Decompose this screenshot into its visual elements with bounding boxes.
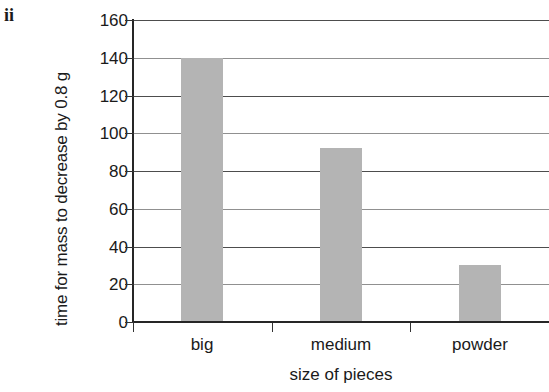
y-axis-tick-mark [125, 171, 134, 172]
y-axis-tick-label-column: 020406080100120140160 [84, 0, 128, 392]
y-axis-tick-label: 40 [84, 238, 128, 255]
x-axis-tick-mark [410, 323, 411, 332]
x-axis-tick-mark [133, 323, 134, 332]
x-axis-line [133, 321, 549, 323]
x-axis-category-label: powder [452, 336, 508, 353]
y-axis-tick-mark [125, 247, 134, 248]
x-axis-category-label: medium [311, 336, 371, 353]
plot-area [133, 20, 549, 322]
y-axis-tick-mark [125, 58, 134, 59]
y-axis-tick-label: 0 [84, 314, 128, 331]
y-axis-tick-label: 20 [84, 276, 128, 293]
bar [459, 265, 501, 322]
bar [181, 58, 223, 322]
x-axis-category-label: big [191, 336, 214, 353]
y-axis-tick-label: 60 [84, 200, 128, 217]
y-axis-tick-label: 140 [84, 49, 128, 66]
y-axis-tick-label: 120 [84, 87, 128, 104]
bar [320, 148, 362, 322]
y-axis-tick-mark [125, 209, 134, 210]
y-axis-tick-mark [125, 133, 134, 134]
y-axis-tick-label: 80 [84, 163, 128, 180]
y-axis-tick-label: 100 [84, 125, 128, 142]
y-axis-title-container: time for mass to decrease by 0.8 g [0, 0, 86, 332]
bar-chart-figure: ii time for mass to decrease by 0.8 g 02… [0, 0, 549, 392]
y-axis-tick-mark [125, 96, 134, 97]
y-axis-tick-mark [125, 284, 134, 285]
gridline [133, 20, 549, 21]
y-axis-tick-label: 160 [84, 12, 128, 29]
x-axis-tick-mark [272, 323, 273, 332]
y-axis-title: time for mass to decrease by 0.8 g [52, 72, 72, 326]
x-axis-title: size of pieces [290, 366, 393, 383]
y-axis-tick-mark [125, 20, 134, 21]
